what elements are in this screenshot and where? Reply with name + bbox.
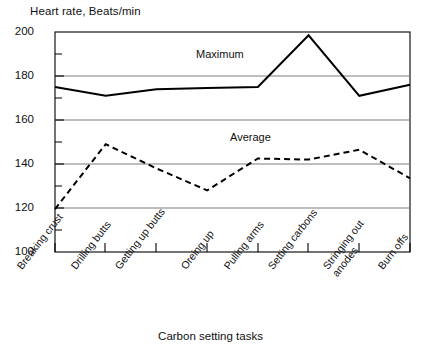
- x-axis-title: Carbon setting tasks: [0, 330, 421, 342]
- series-label-average: Average: [230, 131, 271, 143]
- series-label-maximum: Maximum: [196, 48, 244, 60]
- series-line-average: [55, 144, 410, 209]
- series-line-maximum: [55, 35, 410, 96]
- heart-rate-line-chart: Heart rate, Beats/min 200 180 160 140 12…: [0, 0, 421, 353]
